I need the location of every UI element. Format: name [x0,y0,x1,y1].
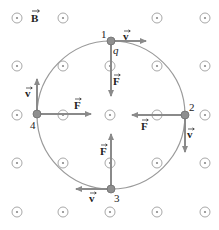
force-label-4: F [74,98,81,111]
force-label-3: F [100,144,107,157]
field-dot-icon [12,110,22,120]
velocity-label-2: v [187,128,194,140]
svg-text:v: v [123,30,129,42]
field-dot-icon [105,207,115,217]
svg-text:F: F [100,145,107,157]
field-dot-icon [200,13,210,23]
magnetic-force-diagram: B 1 2 3 4 q v F v [0,0,219,230]
field-dot-icon [12,61,22,71]
field-dot-icon [58,13,68,23]
field-dot-icon [152,158,162,168]
particle-point-4 [33,110,41,118]
field-dot-icon [58,158,68,168]
field-dot-icon [152,13,162,23]
point-label-1: 1 [101,28,107,40]
velocity-label-4: v [25,87,32,99]
charge-label: q [113,44,119,56]
particle-point-2 [181,111,189,119]
velocity-label-3: v [89,192,96,204]
point-label-2: 2 [189,101,195,113]
svg-text:F: F [141,120,148,132]
point-label-3: 3 [114,192,120,204]
svg-text:F: F [74,99,81,111]
field-dot-icon [200,207,210,217]
field-dot-icon [152,61,162,71]
field-dot-icon [105,110,115,120]
field-dot-icon [152,207,162,217]
force-label-2: F [141,119,148,132]
field-dot-icon [12,158,22,168]
field-dot-icon [58,207,68,217]
field-dot-icon [12,207,22,217]
svg-text:v: v [25,87,31,99]
svg-text:v: v [187,128,193,140]
svg-text:v: v [89,192,95,204]
field-label: B [31,10,40,25]
field-dot-icon [200,158,210,168]
svg-text:B: B [31,12,39,24]
field-dot-icon [200,110,210,120]
field-dot-icon [200,61,210,71]
svg-text:F: F [113,75,120,87]
field-dot-icon [12,13,22,23]
point-label-4: 4 [30,119,36,131]
force-label-1: F [113,74,120,87]
